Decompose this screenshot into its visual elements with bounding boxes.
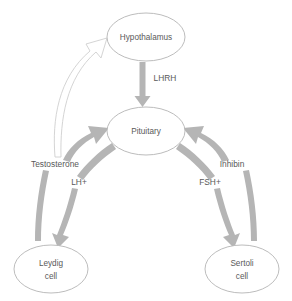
pituitary-label: Pituitary [131,127,161,136]
node-pituitary[interactable]: Pituitary [107,107,185,155]
lh-plus-label: LH+ [71,177,87,187]
testosterone-output-band [35,170,49,241]
lh-band-upper [77,143,116,180]
fsh-band-upper [176,143,215,180]
edge-sertoli-to-inhibin [243,170,257,241]
lhrh-arrow [135,62,151,107]
fsh-plus-label: FSH+ [199,177,221,187]
leydig-cell-label-line2: cell [45,272,57,281]
diagram-canvas: Hypothalamus Pituitary Leydig cell Serto… [0,0,292,301]
node-hypothalamus[interactable]: Hypothalamus [107,13,185,61]
node-sertoli-cell[interactable]: Sertoli cell [205,245,279,293]
inhibin-output-band [243,170,257,241]
leydig-cell-label-line1: Leydig [39,259,64,268]
node-leydig-cell[interactable]: Leydig cell [14,245,88,293]
edge-leydig-to-testosterone [35,170,49,241]
fsh-arrow-to-sertoli [214,188,240,248]
hypothalamus-label: Hypothalamus [120,33,172,42]
lh-arrow-to-leydig [52,188,78,248]
sertoli-cell-label-line2: cell [236,272,248,281]
testosterone-label: Testosterone [31,159,79,169]
leydig-cell-ellipse[interactable] [14,245,88,293]
inhibin-label: Inhibin [220,159,245,169]
edge-hypothalamus-to-pituitary [135,62,151,107]
sertoli-cell-ellipse[interactable] [205,245,279,293]
sertoli-cell-label-line1: Sertoli [230,259,253,268]
lhrh-label: LHRH [154,73,177,83]
endocrine-axis-diagram: Hypothalamus Pituitary Leydig cell Serto… [0,0,292,301]
